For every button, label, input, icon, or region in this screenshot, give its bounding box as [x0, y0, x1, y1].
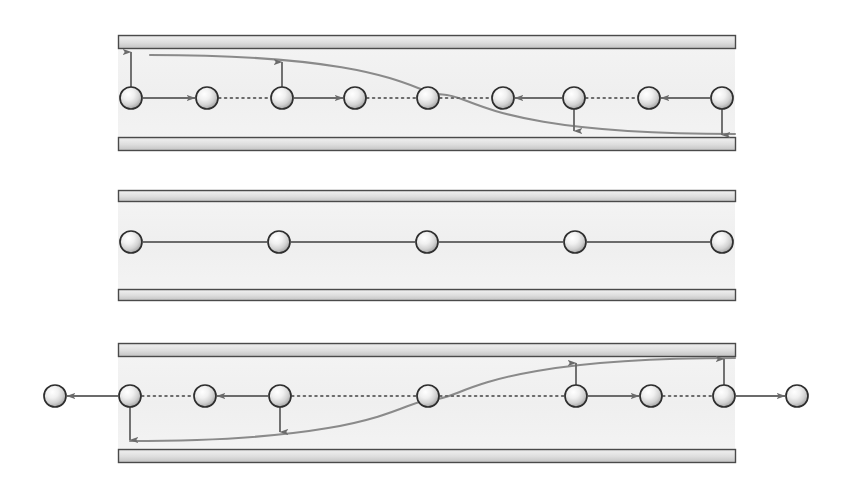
particle-sphere	[344, 87, 366, 109]
particle-sphere	[711, 231, 733, 253]
panel-middle	[118, 190, 736, 301]
particle-sphere	[44, 385, 66, 407]
particle-sphere	[565, 385, 587, 407]
particle-sphere	[786, 385, 808, 407]
bottom-wall	[119, 138, 736, 151]
particle-sphere	[196, 87, 218, 109]
top-wall	[119, 344, 736, 357]
particle-sphere	[417, 385, 439, 407]
particle-trajectory-figure	[0, 0, 852, 487]
particle-sphere	[269, 385, 291, 407]
particle-sphere	[268, 231, 290, 253]
particle-sphere	[194, 385, 216, 407]
particle-sphere	[120, 231, 142, 253]
particle-sphere	[638, 87, 660, 109]
particle-sphere	[416, 231, 438, 253]
particle-sphere	[120, 87, 142, 109]
top-wall	[119, 191, 736, 202]
particle-sphere	[711, 87, 733, 109]
bottom-wall	[119, 290, 736, 301]
panel-bottom	[44, 343, 808, 463]
particle-sphere	[640, 385, 662, 407]
panel-top	[118, 35, 736, 151]
particle-sphere	[119, 385, 141, 407]
diagram-canvas	[0, 0, 852, 487]
particle-sphere	[492, 87, 514, 109]
top-wall	[119, 36, 736, 49]
particle-sphere	[271, 87, 293, 109]
particle-sphere	[563, 87, 585, 109]
bottom-wall	[119, 450, 736, 463]
particle-sphere	[713, 385, 735, 407]
particle-sphere	[417, 87, 439, 109]
particle-sphere	[564, 231, 586, 253]
